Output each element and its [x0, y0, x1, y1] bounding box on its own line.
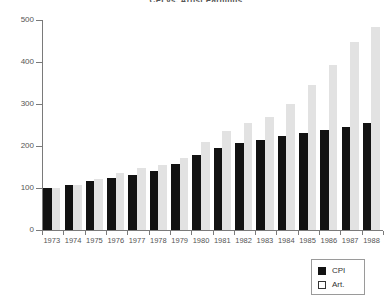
y-axis-labels: 0100200300400500 — [0, 0, 34, 302]
bar-cpi-1974 — [65, 185, 74, 230]
bar-group — [214, 20, 231, 230]
legend-label: Art. — [332, 281, 344, 289]
y-tick-label-400: 400 — [0, 58, 34, 66]
bar-art-1974 — [73, 185, 82, 230]
x-tick-1979 — [170, 231, 171, 235]
bar-art-1978 — [158, 165, 167, 230]
x-tick-1984 — [276, 231, 277, 235]
bar-group — [65, 20, 82, 230]
bar-art-1975 — [94, 179, 103, 230]
bar-art-1981 — [222, 131, 231, 230]
bar-cpi-1980 — [192, 155, 201, 230]
bar-group — [150, 20, 167, 230]
bar-cpi-1975 — [86, 181, 95, 230]
bar-cpi-1979 — [171, 164, 180, 230]
bar-cpi-1985 — [299, 133, 308, 230]
x-tick-label-1983: 1983 — [254, 236, 276, 245]
x-tick-label-1986: 1986 — [318, 236, 340, 245]
y-tick-label-500: 500 — [0, 16, 34, 24]
legend-label: CPI — [332, 267, 345, 275]
x-tick-1981 — [213, 231, 214, 235]
bar-art-1976 — [116, 173, 125, 230]
bar-group — [128, 20, 145, 230]
y-tick-label-200: 200 — [0, 142, 34, 150]
x-tick-1977 — [127, 231, 128, 235]
bar-cpi-1973 — [43, 188, 52, 230]
x-tick-1974 — [63, 231, 64, 235]
legend-item-cpi[interactable]: CPI — [318, 264, 364, 278]
y-tick-label-0: 0 — [0, 226, 34, 234]
bar-group — [363, 20, 380, 230]
bar-group — [342, 20, 359, 230]
y-tick-label-100: 100 — [0, 184, 34, 192]
x-tick-label-1975: 1975 — [83, 236, 105, 245]
x-tick-label-1988: 1988 — [360, 236, 382, 245]
x-tick-label-1974: 1974 — [62, 236, 84, 245]
bar-cpi-1981 — [214, 148, 223, 230]
x-tick-1975 — [85, 231, 86, 235]
x-tick-1982 — [234, 231, 235, 235]
bar-art-1987 — [350, 42, 359, 230]
bar-group — [235, 20, 252, 230]
x-tick-1987 — [340, 231, 341, 235]
bar-group — [171, 20, 188, 230]
bar-cpi-1976 — [107, 178, 116, 230]
legend-swatch-icon — [318, 281, 326, 289]
bar-art-1988 — [371, 27, 380, 230]
x-tick-end — [383, 231, 384, 235]
bar-cpi-1977 — [128, 175, 137, 230]
bar-cpi-1982 — [235, 143, 244, 230]
bar-group — [320, 20, 337, 230]
x-tick-1976 — [106, 231, 107, 235]
bar-art-1973 — [52, 188, 61, 230]
plot-area — [42, 20, 382, 230]
x-tick-label-1973: 1973 — [41, 236, 63, 245]
bar-cpi-1986 — [320, 130, 329, 230]
bar-group — [278, 20, 295, 230]
x-tick-label-1982: 1982 — [233, 236, 255, 245]
x-tick-1986 — [319, 231, 320, 235]
legend-swatch-icon — [318, 267, 326, 275]
bar-art-1986 — [329, 65, 338, 230]
bar-group — [107, 20, 124, 230]
bar-art-1979 — [180, 158, 189, 230]
legend-item-art[interactable]: Art. — [318, 278, 364, 292]
bar-art-1983 — [265, 117, 274, 230]
x-tick-1978 — [149, 231, 150, 235]
chart-title: CPI vs. Artist Earnings — [0, 0, 392, 2]
bar-group — [299, 20, 316, 230]
bar-cpi-1978 — [150, 171, 159, 230]
bar-art-1984 — [286, 104, 295, 230]
x-tick-label-1976: 1976 — [105, 236, 127, 245]
x-tick-1985 — [298, 231, 299, 235]
x-tick-label-1985: 1985 — [297, 236, 319, 245]
x-tick-label-1979: 1979 — [169, 236, 191, 245]
x-tick-label-1981: 1981 — [211, 236, 233, 245]
bar-cpi-1988 — [363, 123, 372, 230]
bar-cpi-1987 — [342, 127, 351, 230]
x-tick-label-1978: 1978 — [147, 236, 169, 245]
x-tick-1983 — [255, 231, 256, 235]
bar-art-1977 — [137, 168, 146, 230]
x-tick-1980 — [191, 231, 192, 235]
x-tick-label-1984: 1984 — [275, 236, 297, 245]
bar-art-1980 — [201, 142, 210, 230]
x-tick-label-1980: 1980 — [190, 236, 212, 245]
bar-cpi-1983 — [256, 140, 265, 230]
x-tick-1973 — [42, 231, 43, 235]
bar-cpi-1984 — [278, 136, 287, 230]
x-tick-label-1977: 1977 — [126, 236, 148, 245]
chart-legend: CPIArt. — [311, 259, 365, 295]
bar-art-1985 — [308, 85, 317, 230]
bar-group — [43, 20, 60, 230]
bar-group — [192, 20, 209, 230]
x-tick-1988 — [362, 231, 363, 235]
y-tick-label-300: 300 — [0, 100, 34, 108]
bar-group — [86, 20, 103, 230]
bar-chart: CPI vs. Artist Earnings 0100200300400500… — [0, 0, 392, 302]
x-tick-label-1987: 1987 — [339, 236, 361, 245]
bar-art-1982 — [244, 123, 253, 230]
bar-group — [256, 20, 273, 230]
